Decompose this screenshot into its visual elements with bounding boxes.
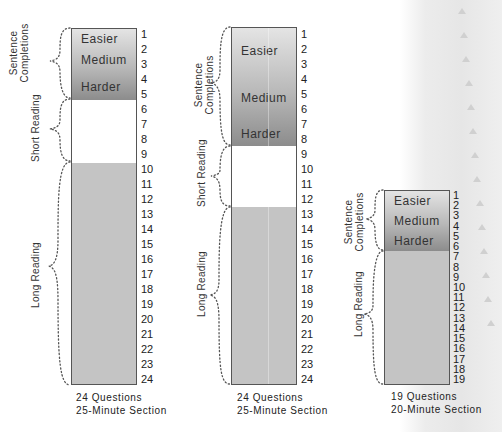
brace-sentence-completions — [50, 28, 70, 98]
brace-long-reading — [210, 207, 230, 384]
brace-short-reading — [211, 146, 230, 206]
brace-long-reading — [49, 162, 70, 385]
brace-long-reading — [364, 251, 383, 384]
brace-sentence-completions — [366, 190, 383, 250]
brace-sentence-completions — [211, 27, 230, 145]
brace-short-reading — [50, 99, 70, 161]
section-braces — [0, 0, 502, 432]
